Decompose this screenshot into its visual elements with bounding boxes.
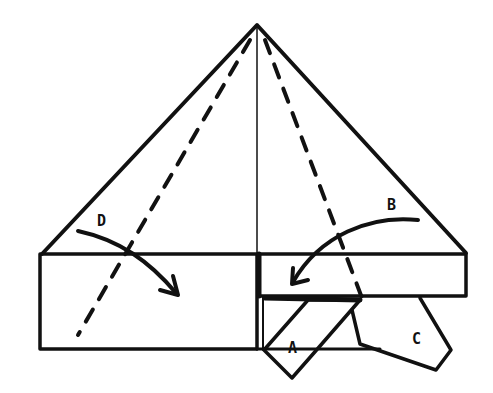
label-c: C (412, 330, 421, 348)
right-band (259, 254, 466, 296)
arrow-d (78, 231, 176, 293)
label-d: D (97, 212, 106, 230)
label-a: A (288, 339, 297, 357)
label-b: B (387, 196, 396, 214)
flap-a (264, 300, 360, 378)
right-dashed-crease (265, 40, 362, 298)
left-band (40, 254, 257, 349)
flap-c (352, 298, 451, 370)
arrow-b (293, 219, 418, 282)
